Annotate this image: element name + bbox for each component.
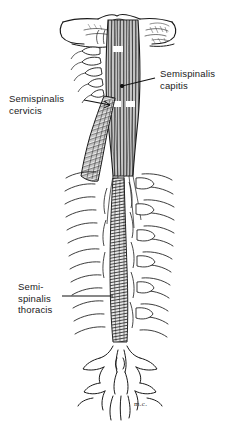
tendinous-intersection-upper [113, 46, 123, 52]
label-thoracis-line2: spinalis [18, 293, 52, 305]
label-cervicis-line2: cervicis [9, 105, 64, 117]
label-semispinalis-capitis: Semispinalis capitis [160, 68, 215, 91]
label-capitis-line2: capitis [160, 80, 215, 92]
label-semispinalis-thoracis: Semi- spinalis thoracis [18, 281, 52, 316]
artist-signature: m.c. [134, 400, 147, 408]
tendinous-intersection-mid-right [126, 101, 135, 107]
label-semispinalis-cervicis: Semispinalis cervicis [9, 93, 64, 116]
label-cervicis-line1: Semispinalis [9, 93, 64, 105]
anatomical-illustration [0, 0, 234, 436]
semispinalis-thoracis-muscle [110, 178, 128, 342]
label-capitis-line1: Semispinalis [160, 68, 215, 80]
label-thoracis-line1: Semi- [18, 281, 52, 293]
label-thoracis-line3: thoracis [18, 304, 52, 316]
